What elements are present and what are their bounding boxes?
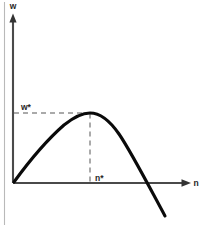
x-axis-label: n [193, 178, 198, 188]
w-star-label: w* [20, 102, 32, 112]
plot-canvas: w n w* n* [0, 0, 205, 227]
wage-curve-figure: w n w* n* [0, 0, 205, 227]
x-axis-arrowhead [182, 179, 192, 187]
y-axis-label: w [9, 1, 17, 11]
wage-curve [14, 113, 165, 216]
n-star-label: n* [95, 173, 104, 183]
y-axis-arrowhead [9, 14, 16, 23]
